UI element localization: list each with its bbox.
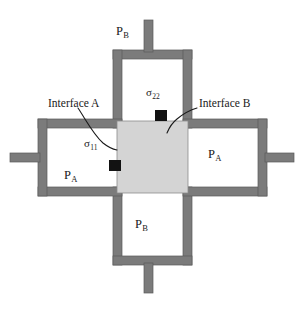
label-bottom-chamber-pressure: PB [135,218,148,231]
left-arm-group [10,119,122,196]
top-arm-stub [144,20,153,52]
label-bottom-chamber-symbol: P [135,217,142,231]
bottom-arm-right-wall [183,187,192,265]
bottom-arm-stub [144,263,153,293]
label-sigma-11-subscript: 11 [90,143,97,152]
label-bottom-chamber-subscript: B [142,223,148,233]
sigma-22-marker [155,110,167,121]
bottom-arm-left-wall [113,187,122,265]
label-interface-a: Interface A [48,98,99,110]
label-stress-sigma-11: σ11 [84,138,97,149]
label-left-chamber-symbol: P [64,168,71,182]
right-arm-bottom-wall [183,187,267,196]
top-arm-left-wall [113,50,122,128]
diagram-canvas [0,0,300,310]
left-arm-bottom-wall [38,187,122,196]
cruciform-diagram: PB PB PA PA σ11 σ22 Interface A Interfac… [0,0,300,310]
label-right-chamber-subscript: A [215,153,221,163]
label-left-chamber-subscript: A [71,174,77,184]
top-arm-right-wall [183,50,192,128]
label-stress-sigma-22: σ22 [146,87,159,98]
label-top-chamber-pressure: PB [116,25,129,38]
label-left-chamber-pressure: PA [64,169,77,182]
right-arm-stub [265,153,294,162]
sigma-11-marker [109,160,121,171]
label-top-chamber-symbol: P [116,24,123,38]
left-arm-stub [10,153,40,162]
left-arm-top-wall [38,119,122,128]
bottom-arm-group [113,187,192,293]
center-specimen-block [117,121,188,193]
label-right-chamber-pressure: PA [208,148,221,161]
right-arm-top-wall [183,119,267,128]
label-interface-b: Interface B [199,98,250,110]
right-arm-group [183,119,294,196]
label-right-chamber-symbol: P [208,147,215,161]
label-sigma-22-subscript: 22 [152,92,160,101]
label-top-chamber-subscript: B [123,30,129,40]
